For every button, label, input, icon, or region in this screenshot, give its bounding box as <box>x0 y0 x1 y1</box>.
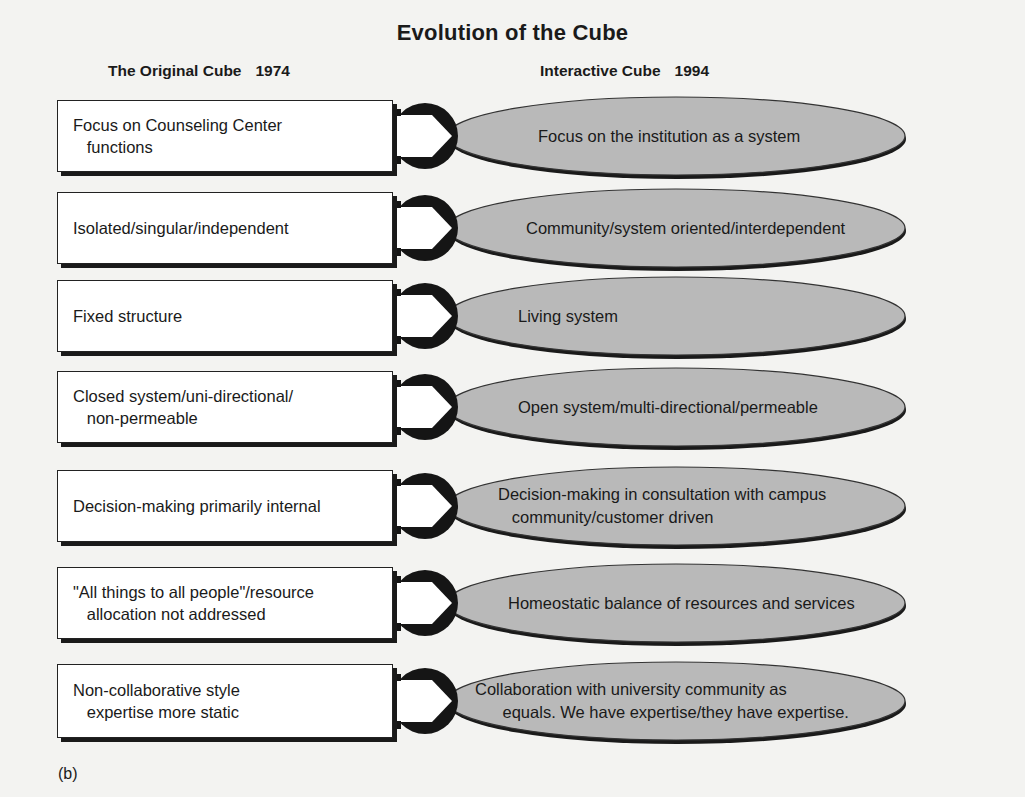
interactive-cube-text: Collaboration with university community … <box>475 678 849 724</box>
figure-caption: (b) <box>58 765 78 783</box>
original-cube-box: Non-collaborative style expertise more s… <box>57 664 393 738</box>
original-cube-text: Non-collaborative style expertise more s… <box>73 679 240 723</box>
